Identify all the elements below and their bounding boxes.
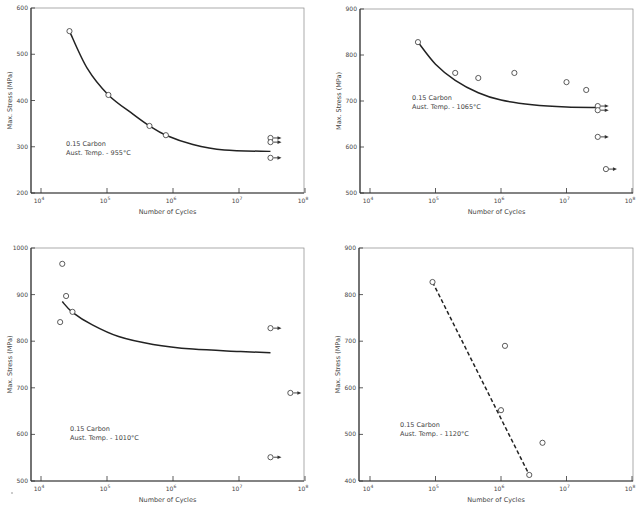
data-point	[268, 140, 273, 145]
data-point	[106, 92, 111, 97]
x-tick-label: 106	[166, 484, 177, 492]
chart-svg: 200300400500600104105106107108Number of …	[0, 0, 643, 508]
x-tick-label: 104	[363, 196, 374, 204]
x-tick-label: 104	[363, 484, 374, 492]
y-tick-label: 500	[345, 430, 357, 437]
annotation-text: 0.15 Carbon	[412, 94, 452, 102]
data-point	[540, 440, 545, 445]
y-tick-label: 1000	[13, 244, 28, 251]
data-point	[63, 293, 68, 298]
data-point	[415, 40, 420, 45]
x-tick-label: 107	[559, 196, 570, 204]
data-point	[527, 472, 532, 477]
data-point	[58, 319, 63, 324]
annotation-text: 0.15 Carbon	[70, 425, 110, 433]
scan-speck	[11, 492, 13, 494]
x-axis-title: Number of Cycles	[467, 496, 525, 504]
x-tick-label: 105	[100, 484, 111, 492]
data-point	[498, 408, 503, 413]
y-axis-title: Max. Stress (MPa)	[6, 336, 14, 394]
data-point	[70, 309, 75, 314]
x-tick-label: 107	[232, 196, 243, 204]
y-tick-label: 700	[346, 97, 358, 104]
y-tick-label: 400	[345, 477, 357, 484]
data-point	[288, 390, 293, 395]
y-tick-label: 600	[17, 4, 29, 11]
x-tick-label: 106	[494, 196, 505, 204]
x-axis-title: Number of Cycles	[468, 208, 526, 216]
y-axis-title: Max. Stress (MPa)	[334, 336, 342, 394]
x-axis-title: Number of Cycles	[139, 496, 197, 504]
y-tick-label: 500	[346, 189, 358, 196]
x-tick-label: 105	[428, 484, 439, 492]
chart-panel-1: 200300400500600104105106107108Number of …	[6, 4, 308, 216]
y-axis-title: Max. Stress (MPa)	[335, 72, 343, 130]
x-tick-label: 105	[428, 196, 439, 204]
x-tick-label: 107	[232, 484, 243, 492]
y-tick-label: 700	[17, 384, 29, 391]
data-point	[476, 75, 481, 80]
data-point	[595, 108, 600, 113]
data-point	[584, 87, 589, 92]
data-point	[502, 343, 507, 348]
data-point	[67, 29, 72, 34]
data-point	[268, 455, 273, 460]
annotation-text: 0.15 Carbon	[66, 140, 106, 148]
x-axis-title: Number of Cycles	[139, 208, 197, 216]
annotation-text: Aust. Temp. - 955°C	[66, 149, 131, 157]
x-tick-label: 108	[625, 484, 636, 492]
chart-panel-4: 400500600700800900104105106107108Number …	[334, 244, 635, 504]
y-tick-label: 600	[17, 430, 29, 437]
y-tick-label: 300	[17, 143, 29, 150]
x-tick-label: 108	[298, 196, 309, 204]
x-tick-label: 108	[625, 196, 636, 204]
annotation-text: Aust. Temp. - 1120°C	[400, 430, 469, 438]
annotation-text: 0.15 Carbon	[400, 421, 440, 429]
fit-curve	[62, 302, 270, 353]
x-tick-label: 106	[494, 484, 505, 492]
data-point	[268, 155, 273, 160]
x-tick-label: 105	[100, 196, 111, 204]
x-tick-label: 104	[34, 196, 45, 204]
x-tick-label: 108	[298, 484, 309, 492]
data-point	[268, 326, 273, 331]
y-tick-label: 500	[17, 50, 29, 57]
y-tick-label: 600	[346, 143, 358, 150]
x-tick-label: 106	[166, 196, 177, 204]
data-point	[512, 70, 517, 75]
chart-panel-2: 500600700800900104105106107108Number of …	[335, 5, 635, 216]
y-tick-label: 800	[17, 337, 29, 344]
data-point	[147, 123, 152, 128]
fit-curve	[69, 31, 270, 151]
plot-frame	[31, 248, 304, 481]
y-tick-label: 200	[17, 189, 29, 196]
y-tick-label: 800	[345, 291, 357, 298]
y-tick-label: 500	[17, 477, 29, 484]
x-tick-label: 107	[559, 484, 570, 492]
plot-frame	[359, 248, 633, 481]
data-point	[430, 279, 435, 284]
y-tick-label: 800	[346, 51, 358, 58]
y-tick-label: 900	[17, 291, 29, 298]
data-point	[603, 166, 608, 171]
y-tick-label: 400	[17, 97, 29, 104]
data-point	[595, 134, 600, 139]
x-tick-label: 104	[34, 484, 45, 492]
data-point	[163, 133, 168, 138]
y-axis-title: Max. Stress (MPa)	[6, 72, 14, 130]
plot-frame	[360, 9, 633, 193]
figure-grid: 200300400500600104105106107108Number of …	[0, 0, 643, 508]
annotation-text: Aust. Temp. - 1065°C	[412, 103, 481, 111]
annotation-text: Aust. Temp. - 1010°C	[70, 434, 139, 442]
fit-curve	[433, 282, 530, 475]
y-tick-label: 900	[345, 244, 357, 251]
y-tick-label: 900	[346, 5, 358, 12]
y-tick-label: 600	[345, 384, 357, 391]
chart-panel-3: 5006007008009001000104105106107108Number…	[6, 244, 308, 504]
data-point	[60, 261, 65, 266]
data-point	[453, 70, 458, 75]
data-point	[564, 80, 569, 85]
y-tick-label: 700	[345, 337, 357, 344]
